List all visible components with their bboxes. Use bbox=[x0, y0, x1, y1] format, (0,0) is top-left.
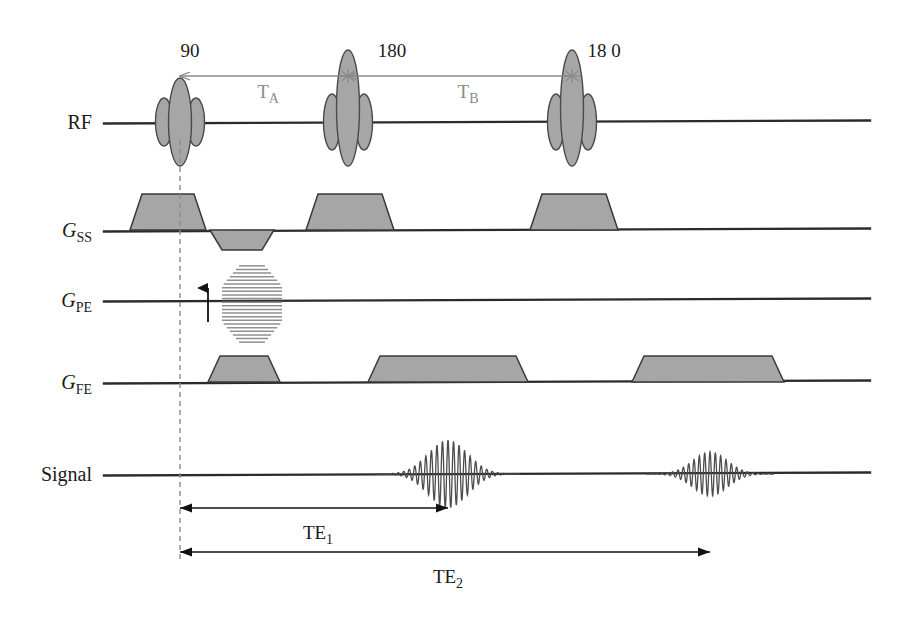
pulse-sequence-figure: RFGSSGPEGFESignal 9018018 0TATBTE1TE2 bbox=[0, 0, 923, 624]
gradient-lobe-readout-dephase bbox=[208, 356, 280, 382]
flip-angle-label-excitation-pulse: 90 bbox=[181, 40, 200, 61]
rf-main-lobe bbox=[337, 50, 360, 166]
gradient-lobe-readout-echo-1 bbox=[368, 356, 528, 382]
gradient-lobe-slice-select-180b bbox=[530, 194, 618, 230]
interval-anchor-star bbox=[339, 69, 357, 83]
interval-anchor-star bbox=[563, 69, 581, 83]
channel-label-rf: RF bbox=[68, 111, 92, 133]
rf-main-lobe bbox=[561, 50, 584, 166]
gradient-lobe-slice-rephase bbox=[210, 230, 274, 250]
gradient-lobe-slice-select-90 bbox=[130, 194, 206, 230]
pulse-sequence-canvas: RFGSSGPEGFESignal 9018018 0TATBTE1TE2 bbox=[0, 0, 923, 624]
gradient-lobe-readout-echo-2 bbox=[632, 356, 784, 382]
gradient-lobe-slice-select-180a bbox=[306, 194, 394, 230]
flip-angle-label-refocusing-pulse-1: 180 bbox=[378, 40, 407, 61]
channel-label-signal: Signal bbox=[41, 463, 93, 486]
flip-angle-label-refocusing-pulse-2: 18 0 bbox=[587, 40, 620, 61]
